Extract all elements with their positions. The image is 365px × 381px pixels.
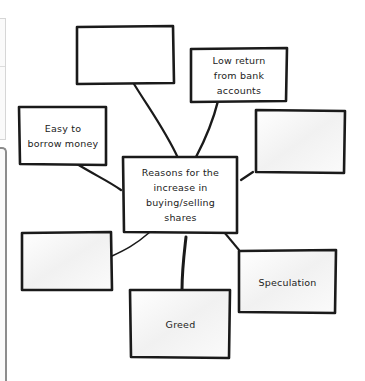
connector-top-empty	[134, 84, 178, 158]
connector-right-empty	[241, 172, 253, 180]
node-box-left-empty	[22, 232, 112, 290]
node-speculation-label: Speculation	[239, 251, 336, 313]
connector-easy-borrow	[77, 164, 121, 190]
node-box-top-empty	[77, 26, 174, 84]
node-box-right-empty	[256, 110, 345, 173]
node-center-label: Reasons for the increase in buying/selli…	[124, 158, 237, 232]
connector-speculation	[224, 232, 239, 250]
node-easy-borrow-label: Easy to borrow money	[20, 108, 106, 164]
node-low-return-label: Low return from bank accounts	[191, 49, 287, 102]
connector-left-empty	[112, 232, 150, 256]
connector-greed	[182, 237, 186, 290]
connector-low-return	[196, 101, 218, 157]
node-greed-label: Greed	[131, 291, 230, 357]
